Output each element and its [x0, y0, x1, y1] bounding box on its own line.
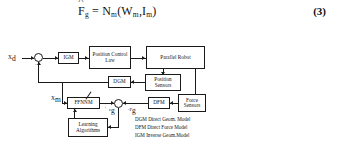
- summing-junction-position: [34, 53, 43, 62]
- arrowhead-igm-pcl: [85, 56, 88, 60]
- arrowhead-pcl-robot: [142, 56, 145, 60]
- signal-label-fg-hat: -Fg: [128, 104, 136, 113]
- block-dfm-label: DFM: [153, 100, 164, 105]
- signal-label-epsilon-g: εg: [109, 104, 115, 113]
- block-dfm[interactable]: DFM: [148, 97, 170, 109]
- equation-arg1-subscript: m: [133, 10, 139, 19]
- arrowhead-feedback-sum: [37, 62, 41, 65]
- block-position-control-law-line2: Law: [105, 58, 114, 63]
- equation-function: N: [102, 4, 111, 18]
- legend-item-igm: IGM Inverse Geom.Model: [135, 132, 190, 140]
- block-dgm[interactable]: DGM: [108, 76, 131, 88]
- legend-item-dgm: DGM Direct Geom. Model: [135, 116, 190, 124]
- wire-sum2-to-learning: [118, 108, 119, 127]
- equation-function-subscript: m: [111, 10, 117, 19]
- block-learning-algorithms[interactable]: Learning Algorithms: [68, 118, 108, 137]
- block-position-sensors[interactable]: Position Sensors: [145, 74, 181, 91]
- block-force-sensors[interactable]: Force Sensors: [178, 94, 206, 112]
- block-igm[interactable]: IGM: [58, 52, 79, 64]
- signal-label-xd: Xd: [8, 52, 16, 61]
- equation-close-paren: ): [152, 4, 156, 18]
- arrowhead-forcesensors-dfm: [170, 101, 173, 105]
- equation-arg2-subscript: m: [146, 10, 152, 19]
- legend-abbreviations: DGM Direct Geom. Model DFM Direct Force …: [135, 116, 190, 140]
- block-learning-algorithms-line2: Algorithms: [76, 128, 100, 133]
- block-parallel-robot[interactable]: Parallel Robot: [146, 46, 205, 69]
- wire-dgm-feedback-bus: [38, 82, 108, 83]
- block-position-control-law[interactable]: Position Control Law: [89, 46, 131, 69]
- block-ffnnm[interactable]: FFNNM: [67, 97, 100, 109]
- summing-junction-force: [114, 99, 123, 108]
- equation-number: (3): [313, 5, 326, 17]
- arrowhead-learning-input: [108, 125, 111, 129]
- block-parallel-robot-label: Parallel Robot: [160, 55, 191, 60]
- equation-lhs-subscript: g: [85, 10, 89, 19]
- wire-dgm-branch-to-ffnnm: [62, 82, 63, 103]
- wire-feedback-up-to-sum: [38, 62, 39, 82]
- arrowhead-dfm-sum2: [123, 101, 126, 105]
- sum-sign-plus-force: +: [104, 105, 107, 110]
- equation-arg1: W: [121, 4, 133, 18]
- figure-canvas: Fg = Nm(Wm,Im) (3) Xd - IGM Position Con…: [0, 0, 338, 146]
- equation-3: Fg = Nm(Wm,Im): [78, 4, 157, 19]
- equation-lhs-symbol: F: [78, 4, 85, 19]
- block-igm-label: IGM: [63, 55, 73, 60]
- legend-item-dfm: DFM Direct Force Model: [135, 124, 190, 132]
- equation-equals: =: [92, 4, 99, 18]
- block-dgm-label: DGM: [113, 79, 125, 84]
- block-position-sensors-line2: Sensors: [155, 83, 172, 88]
- block-force-sensors-line2: Sensors: [184, 103, 201, 108]
- signal-label-xm: Xm: [51, 93, 61, 102]
- arrowhead-possensors-dgm: [131, 80, 134, 84]
- arrowhead-learning-ffnnm: [73, 109, 77, 112]
- block-ffnnm-label: FFNNM: [74, 100, 92, 105]
